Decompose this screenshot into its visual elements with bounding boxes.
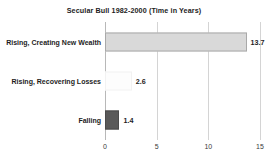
x-tick-label-3: 15 — [256, 143, 264, 150]
category-axis-labels: Rising, Creating New Wealth Rising, Reco… — [0, 22, 101, 140]
bar-falling[interactable] — [105, 111, 119, 130]
bar-row: 2.6 — [105, 61, 260, 100]
bar-row: 1.4 — [105, 101, 260, 140]
bar-value-0: 13.7 — [251, 37, 265, 46]
bar-value-1: 2.6 — [136, 76, 146, 85]
category-label-1: Rising, Recovering Losses — [1, 78, 101, 85]
category-label-2: Falling — [1, 117, 101, 124]
bar-value-2: 1.4 — [123, 116, 133, 125]
x-axis-tick-labels: 0 5 10 15 — [105, 143, 260, 157]
bar-row: 13.7 — [105, 22, 260, 61]
plot-area: 13.7 2.6 1.4 — [105, 22, 260, 140]
x-tick-label-1: 5 — [155, 143, 159, 150]
category-label-0: Rising, Creating New Wealth — [1, 38, 101, 45]
x-tick-label-0: 0 — [103, 143, 107, 150]
bar-rising-recovering-losses[interactable] — [105, 71, 132, 90]
bar-rising-creating-new-wealth[interactable] — [105, 32, 247, 51]
bar-chart: Secular Bull 1982-2000 (Time in Years) R… — [0, 0, 268, 165]
x-tick-label-2: 10 — [204, 143, 212, 150]
chart-title: Secular Bull 1982-2000 (Time in Years) — [0, 6, 268, 15]
